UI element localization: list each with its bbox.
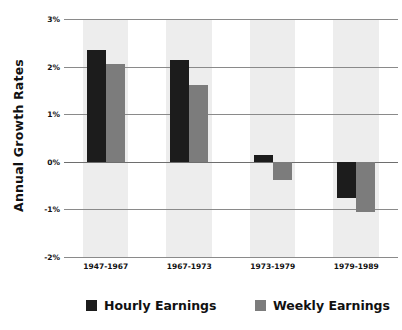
legend-item-weekly-earnings: Weekly Earnings (255, 298, 390, 313)
bar-weekly (356, 162, 375, 212)
bar-hourly (87, 50, 106, 162)
y-axis-tick-label: 1% (47, 110, 60, 119)
bar-weekly (273, 162, 292, 180)
gridline (64, 257, 398, 258)
legend-item-hourly-earnings: Hourly Earnings (86, 298, 217, 313)
y-axis-tick-label: -1% (44, 205, 60, 214)
legend-label-weekly: Weekly Earnings (273, 298, 390, 313)
x-axis-category-label: 1973-1979 (250, 262, 295, 271)
bar-hourly (170, 60, 189, 162)
legend-label-hourly: Hourly Earnings (104, 298, 217, 313)
y-axis-tick-label: -2% (44, 253, 60, 262)
x-axis-category-label: 1967-1973 (167, 262, 212, 271)
legend-swatch-icon-weekly (255, 300, 266, 311)
plot-area (64, 19, 398, 257)
gridline (64, 19, 398, 20)
y-axis-title: Annual Growth Rates (0, 0, 36, 270)
bar-hourly (254, 155, 273, 162)
y-axis-tick-label: 2% (47, 62, 60, 71)
y-axis-title-label: Annual Growth Rates (11, 59, 26, 212)
plot-band (333, 19, 379, 257)
y-axis-tick-labels: 3%2%1%0%-1%-2% (34, 0, 62, 330)
x-axis-category-label: 1947-1967 (83, 262, 128, 271)
gridline (64, 209, 398, 210)
y-axis-tick-label: 3% (47, 15, 60, 24)
legend-swatch-icon-hourly (86, 300, 97, 311)
bar-weekly (189, 85, 208, 162)
x-axis-category-labels: 1947-19671967-19731973-19791979-1989 (64, 262, 398, 278)
x-axis-category-label: 1979-1989 (334, 262, 379, 271)
bar-chart: Annual Growth Rates 3%2%1%0%-1%-2% 1947-… (0, 0, 402, 330)
plot-band (250, 19, 296, 257)
chart-legend: Hourly Earnings Weekly Earnings (64, 294, 398, 316)
bar-weekly (106, 64, 125, 162)
y-axis-tick-label: 0% (47, 157, 60, 166)
bar-hourly (337, 162, 356, 198)
